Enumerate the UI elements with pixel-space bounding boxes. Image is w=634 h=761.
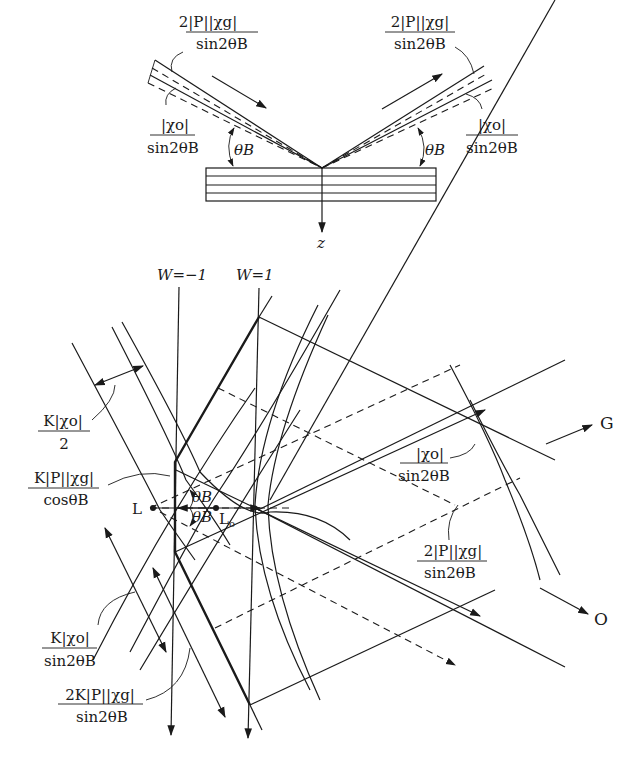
svg-text:2|P||χg|: 2|P||χg| (391, 13, 450, 31)
crossing-line-1 (130, 290, 340, 652)
angle-label-lower: θB (192, 508, 212, 526)
svg-text:2|P||χg|: 2|P||χg| (179, 13, 238, 31)
direction-O-arrow (540, 588, 588, 614)
leader-reflected-lower (466, 94, 482, 109)
label-k-chi0-sin: K|χo| sin2θB (42, 629, 97, 670)
svg-text:sin2θB: sin2θB (44, 652, 96, 670)
svg-text:sin2θB: sin2θB (76, 708, 128, 726)
svg-text:sin2θB: sin2θB (424, 564, 476, 582)
direction-O-label: O (594, 609, 608, 629)
upper-g-line (259, 317, 555, 460)
top-panel: z θB θB 2|P||χg| (147, 13, 518, 252)
leader-reflected-upper (455, 47, 474, 74)
label-2p-chig-sin-right: 2|P||χg| sin2θB (417, 542, 487, 582)
label-incident-lower: |χo| sin2θB (147, 116, 199, 157)
angle-label-upper: θB (192, 488, 212, 506)
k-chi0-half-arrow (95, 366, 143, 385)
w-plus-1-label: W=1 (236, 266, 274, 284)
bottom-panel: W=−1 W=1 (28, 0, 614, 738)
2k-p-chig-arrow (153, 568, 225, 717)
svg-text:sin2θB: sin2θB (394, 35, 446, 53)
svg-text:cosθB: cosθB (43, 491, 88, 509)
label-2k-p-chig-sin: 2K|P||χg| sin2θB (58, 686, 143, 726)
crossing-line-3 (140, 410, 300, 670)
label-chi0-sin-right: |χo| sin2θB (398, 445, 450, 485)
svg-text:|χo|: |χo| (478, 116, 506, 134)
svg-text:2: 2 (59, 435, 69, 453)
thick-boundary (175, 317, 259, 705)
direction-G-label: G (600, 413, 614, 433)
leader-incident-upper (171, 52, 183, 72)
label-incident-upper: 2|P||χg| sin2θB (179, 13, 258, 53)
svg-text:sin2θB: sin2θB (147, 139, 199, 157)
label-k-p-chig-cos: K|P||χg| cosθB (28, 469, 99, 509)
svg-text:K|χo|: K|χo| (50, 629, 89, 647)
point-L-label: L (132, 500, 142, 518)
angle-label-right: θB (425, 141, 445, 159)
point-Lo-label: Lo (219, 510, 235, 529)
direction-G-arrow (546, 425, 592, 444)
incident-direction-arrow (212, 76, 266, 108)
w-minus-1-label: W=−1 (157, 266, 207, 284)
svg-text:|χo|: |χo| (416, 445, 444, 463)
label-reflected-upper: 2|P||χg| sin2θB (385, 13, 455, 53)
label-k-chi0-half: K|χo| 2 (38, 412, 90, 453)
arc-right-1 (470, 400, 560, 575)
dispersion-surface-diagram: z θB θB 2|P||χg| (0, 0, 634, 761)
crystal-slab (206, 168, 436, 201)
svg-text:K|χo|: K|χo| (43, 412, 82, 430)
svg-text:sin2θB: sin2θB (196, 35, 248, 53)
dispersion-branch-left-inner (112, 327, 230, 545)
label-reflected-lower: |χo| sin2θB (466, 116, 518, 157)
k-chi0-sin-arrow (105, 528, 166, 652)
svg-text:K|P||χg|: K|P||χg| (34, 469, 94, 487)
svg-text:sin2θB: sin2θB (398, 467, 450, 485)
svg-text:2K|P||χg|: 2K|P||χg| (65, 686, 135, 704)
svg-text:|χo|: |χo| (161, 116, 189, 134)
reflected-direction-arrow (382, 74, 442, 109)
z-axis-label: z (316, 234, 325, 252)
angle-arc-right (418, 128, 424, 166)
lower-o-line (250, 590, 495, 705)
dispersion-branch-right-inner (255, 305, 318, 690)
angle-label-left: θB (234, 141, 254, 159)
svg-text:2|P||χg|: 2|P||χg| (424, 542, 483, 560)
point-L-dot (150, 505, 156, 511)
